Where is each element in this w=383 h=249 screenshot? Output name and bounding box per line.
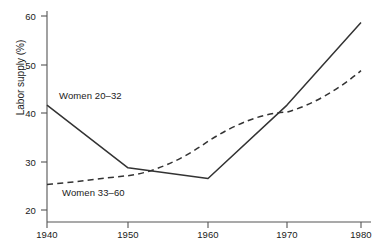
- x-tick-label-1940: 1940: [27, 229, 67, 240]
- y-tick-label-20: 20: [14, 205, 36, 216]
- y-tick-label-30: 30: [14, 157, 36, 168]
- x-tick-label-1980: 1980: [341, 229, 381, 240]
- series-annotation-women-33-60: Women 33–60: [62, 187, 125, 198]
- y-tick-label-60: 60: [14, 11, 36, 22]
- x-tick-label-1970: 1970: [267, 229, 307, 240]
- y-tick-label-50: 50: [14, 60, 36, 71]
- y-tick-label-40: 40: [14, 108, 36, 119]
- series-annotation-women-20-32: Women 20–32: [59, 90, 122, 101]
- line-chart: Labor supply (%) 60 50 40 30 20 1940 195…: [0, 0, 383, 249]
- x-tick-label-1950: 1950: [108, 229, 148, 240]
- x-tick-label-1960: 1960: [188, 229, 228, 240]
- series-line-women-33-60: [47, 71, 361, 185]
- plot-area: [0, 0, 383, 249]
